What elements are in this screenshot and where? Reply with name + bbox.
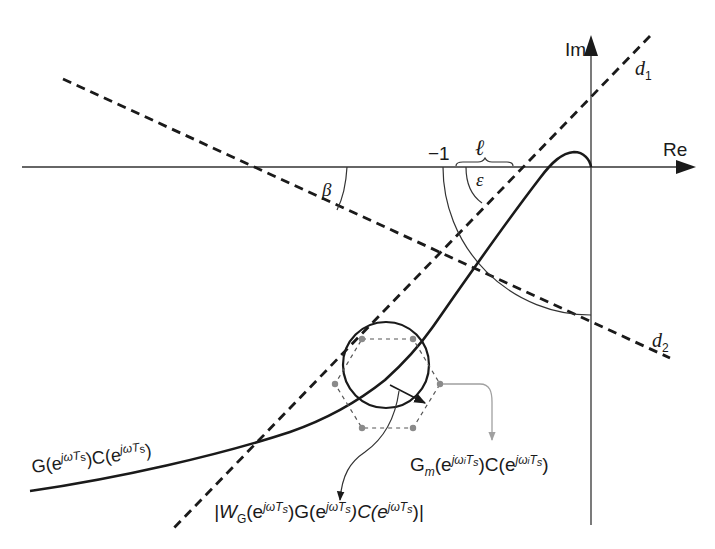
beta-angle-arc: [337, 167, 347, 210]
model-label: Gm(ejωiTs)C(ejωiTs): [410, 455, 549, 474]
distance-brace: [456, 158, 513, 166]
imag-axis-label: Im: [565, 40, 586, 59]
unit-circle-arc: [443, 167, 591, 315]
real-axis-label: Re: [663, 140, 687, 159]
uncertainty-disk: [343, 322, 429, 408]
epsilon-label: ε: [476, 170, 484, 189]
line-d2: [63, 79, 670, 358]
beta-label: β: [322, 180, 331, 199]
model-pointer-arrow: [443, 384, 492, 440]
d1-label: d1: [635, 58, 652, 78]
nyquist-diagram: [0, 0, 715, 549]
d2-label: d2: [652, 330, 669, 350]
radius-arrow: [390, 385, 425, 403]
uncertainty-label: |WG(ejωTs)G(ejωTs)C(ejωTs)|: [214, 502, 424, 521]
nyquist-curve: [30, 152, 591, 491]
real-axis-arrow-icon: [676, 160, 696, 174]
distance-label: ℓ: [475, 137, 484, 159]
minus-one-label: −1: [428, 144, 450, 163]
